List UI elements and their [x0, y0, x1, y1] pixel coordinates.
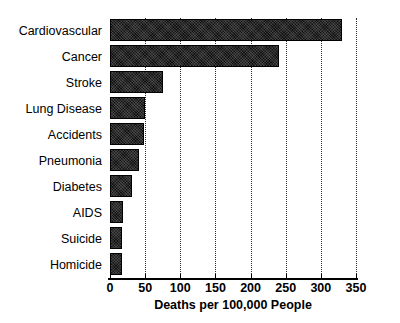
- bar-row: [110, 174, 356, 200]
- x-tick-mark: [180, 274, 181, 279]
- y-tick-label-accidents: Accidents: [0, 122, 106, 148]
- x-axis-tick-labels: 050100150200250300350: [110, 281, 356, 297]
- bar-cancer: [110, 45, 279, 67]
- x-tick-label: 300: [310, 281, 331, 295]
- bar-cardiovascular: [110, 19, 342, 41]
- bar-suicide: [110, 227, 122, 249]
- gridline: [356, 18, 357, 278]
- bar-chart-figure: Cardiovascular Cancer Stroke Lung Diseas…: [0, 0, 400, 323]
- bar-row: [110, 18, 356, 44]
- x-tick-mark: [110, 274, 111, 279]
- x-tick-mark: [215, 274, 216, 279]
- x-axis-tick-marks: [110, 274, 356, 279]
- bar-row: [110, 148, 356, 174]
- x-tick-mark: [145, 274, 146, 279]
- x-axis-title: Deaths per 100,000 People: [110, 298, 356, 312]
- bar-aids: [110, 201, 123, 223]
- y-tick-label-diabetes: Diabetes: [0, 174, 106, 200]
- x-tick-mark: [356, 274, 357, 279]
- x-tick-label: 50: [138, 281, 152, 295]
- x-tick-label: 250: [275, 281, 296, 295]
- x-tick-label: 150: [205, 281, 226, 295]
- bar-row: [110, 226, 356, 252]
- bar-lung-disease: [110, 97, 145, 119]
- y-tick-label-suicide: Suicide: [0, 226, 106, 252]
- x-tick-label: 100: [170, 281, 191, 295]
- y-axis-category-labels: Cardiovascular Cancer Stroke Lung Diseas…: [0, 18, 106, 278]
- bar-row: [110, 96, 356, 122]
- bar-row: [110, 200, 356, 226]
- bar-accidents: [110, 123, 144, 145]
- bar-homicide: [110, 253, 122, 275]
- bar-row: [110, 122, 356, 148]
- y-tick-label-aids: AIDS: [0, 200, 106, 226]
- x-tick-label: 200: [240, 281, 261, 295]
- bar-diabetes: [110, 175, 132, 197]
- y-tick-label-cancer: Cancer: [0, 44, 106, 70]
- bar-pneumonia: [110, 149, 139, 171]
- bar-row: [110, 44, 356, 70]
- bar-stroke: [110, 71, 163, 93]
- y-tick-label-lung-disease: Lung Disease: [0, 96, 106, 122]
- y-tick-label-cardiovascular: Cardiovascular: [0, 18, 106, 44]
- y-tick-label-stroke: Stroke: [0, 70, 106, 96]
- plot-area: [110, 18, 356, 278]
- y-tick-label-pneumonia: Pneumonia: [0, 148, 106, 174]
- y-tick-label-homicide: Homicide: [0, 252, 106, 278]
- bars-layer: [110, 18, 356, 278]
- x-tick-mark: [321, 274, 322, 279]
- x-tick-label: 350: [346, 281, 367, 295]
- bar-row: [110, 70, 356, 96]
- x-tick-label: 0: [107, 281, 114, 295]
- x-tick-mark: [286, 274, 287, 279]
- x-tick-mark: [251, 274, 252, 279]
